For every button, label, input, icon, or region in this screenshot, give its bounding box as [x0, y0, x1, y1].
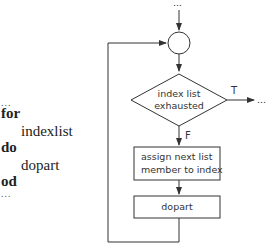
true-exit-ellipsis: ...	[257, 94, 266, 105]
true-label: T	[230, 85, 238, 96]
body-label: dopart	[161, 201, 193, 212]
decision-line2: exhausted	[154, 100, 204, 111]
flowchart: ... index list exhausted T ... F assign …	[0, 0, 273, 248]
junction-node	[168, 32, 190, 54]
decision-line1: index list	[158, 88, 201, 99]
assign-line2: member to index	[141, 164, 223, 175]
entry-ellipsis: ...	[173, 0, 182, 8]
false-label: F	[185, 130, 191, 141]
assign-line1: assign next list	[141, 151, 213, 162]
